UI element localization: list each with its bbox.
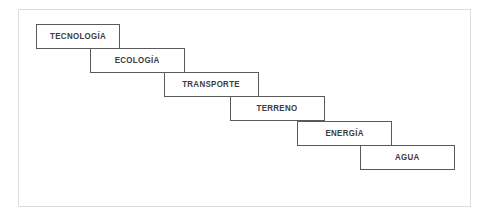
step-label: TERRENO <box>257 104 298 113</box>
diagram-canvas: TECNOLOGÍAECOLOGÍATRANSPORTETERRENOENERG… <box>0 0 491 223</box>
step-box: AGUA <box>360 145 455 170</box>
step-label: AGUA <box>395 153 420 162</box>
step-box: ECOLOGÍA <box>90 48 185 73</box>
step-label: ECOLOGÍA <box>115 56 160 65</box>
step-box: ENERGÍA <box>297 121 392 146</box>
staircase-diagram: TECNOLOGÍAECOLOGÍATRANSPORTETERRENOENERG… <box>0 0 491 223</box>
step-label: TRANSPORTE <box>183 80 241 89</box>
step-box: TRANSPORTE <box>164 72 259 97</box>
step-box: TERRENO <box>230 96 325 121</box>
step-label: TECNOLOGÍA <box>50 32 106 41</box>
step-label: ENERGÍA <box>325 129 363 138</box>
step-box: TECNOLOGÍA <box>36 24 120 49</box>
